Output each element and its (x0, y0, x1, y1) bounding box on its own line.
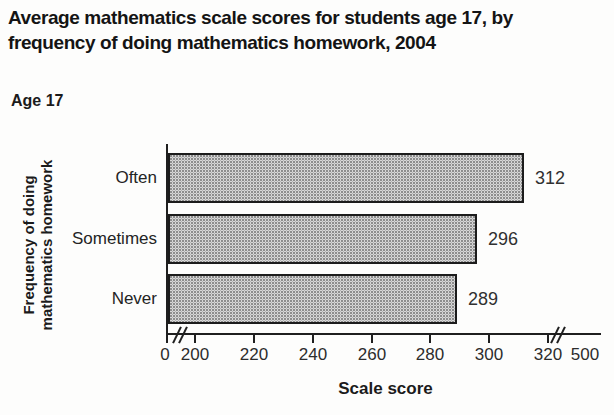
x-tick-label: 280 (407, 345, 453, 365)
age-subtitle: Age 17 (11, 92, 63, 110)
x-tick-mark (429, 335, 431, 343)
x-tick-label: 200 (172, 345, 218, 365)
bar-value-label: 296 (488, 228, 518, 250)
category-label-often: Often (8, 167, 157, 189)
chart-figure: Average mathematics scale scores for stu… (0, 0, 614, 415)
x-tick-mark (194, 335, 196, 343)
x-tick-label: 240 (290, 345, 336, 365)
bar-sometimes (168, 214, 477, 264)
bar-value-label: 312 (535, 167, 565, 189)
bar-never (168, 274, 457, 324)
x-tick-mark (166, 335, 168, 343)
chart-title: Average mathematics scale scores for stu… (8, 5, 610, 55)
bar-often (168, 153, 524, 203)
plot-area: Scale score 3122962890200220240260280300… (166, 144, 601, 335)
x-axis-label: Scale score (168, 379, 603, 399)
x-tick-mark (253, 335, 255, 343)
x-tick-label: 500 (562, 345, 608, 365)
x-tick-label: 300 (466, 345, 512, 365)
x-tick-mark (312, 335, 314, 343)
axis-break-icon (554, 326, 566, 344)
chart-title-line2: frequency of doing mathematics homework,… (8, 30, 610, 55)
x-tick-mark (371, 335, 373, 343)
category-label-never: Never (8, 288, 157, 310)
bar-value-label: 289 (468, 288, 498, 310)
x-tick-mark (488, 335, 490, 343)
axis-break-icon (176, 326, 188, 344)
chart-title-line1: Average mathematics scale scores for stu… (8, 5, 610, 30)
x-tick-mark (547, 335, 549, 343)
category-label-sometimes: Sometimes (8, 228, 157, 250)
x-tick-label: 260 (349, 345, 395, 365)
x-tick-label: 220 (231, 345, 277, 365)
